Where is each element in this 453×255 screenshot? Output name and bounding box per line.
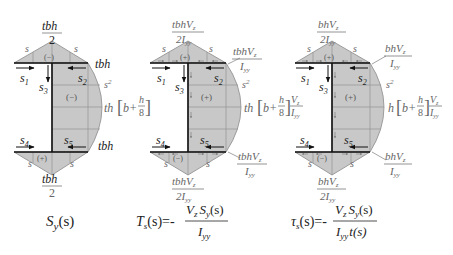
d3-top-label: bhVz 2Iyy <box>317 18 346 47</box>
svg-text:Ts(s)=-: Ts(s)=- <box>136 214 175 231</box>
d3-end-top-label: bhVz Iyy <box>372 42 412 71</box>
svg-text:Vz: Vz <box>430 94 439 106</box>
s3-label: s3 <box>39 80 48 96</box>
svg-text:VzSy(s): VzSy(s) <box>186 202 224 219</box>
svg-text:th: th <box>104 101 113 115</box>
d1-end-bot: tbh <box>98 139 113 153</box>
sign-label: (+) <box>180 53 190 62</box>
svg-text:2Iyy: 2Iyy <box>176 33 192 47</box>
svg-text:Iyy: Iyy <box>290 107 300 119</box>
svg-text:8: 8 <box>139 107 144 118</box>
d1-top-den: 2 <box>49 33 55 47</box>
svg-text:bhVz: bhVz <box>385 150 406 164</box>
svg-text:h: h <box>139 94 144 105</box>
caption-shear-stress: τs(s)=- VzSy(s) Iyyt(s) <box>291 202 377 241</box>
svg-text:Sy(s): Sy(s) <box>46 213 74 232</box>
svg-text:8: 8 <box>279 107 284 118</box>
caption-first-moment: Sy(s) <box>46 213 74 232</box>
svg-text:tbhVz: tbhVz <box>238 150 262 164</box>
svg-text:s4: s4 <box>156 133 165 149</box>
sign-label: (+) <box>37 154 47 163</box>
svg-text:Iyy: Iyy <box>239 60 251 74</box>
diagram-shear-flow: tbhVz 2Iyy s s (+) tbhVz Iyy s1 s2 s3 s2… <box>150 18 303 204</box>
d3-bot-label: bhVz 2Iyy <box>317 175 346 204</box>
s4-label: s4 <box>20 133 29 149</box>
svg-text:Iyy: Iyy <box>197 224 210 241</box>
shear-diagrams: tbh 2 s s (−) tbh s1 s2 s3 s2 (−) th [ b… <box>0 0 453 255</box>
sign-label: (+) <box>201 92 212 102</box>
d2-bot-label: tbhVz 2Iyy <box>172 175 204 204</box>
sign-label: (−) <box>44 53 54 62</box>
d3-end-bot-label: bhVz Iyy <box>372 150 412 179</box>
s-label: s <box>70 158 74 169</box>
s1-label: s1 <box>20 71 29 87</box>
d2-end-top-label: tbhVz Iyy <box>228 45 262 74</box>
sign-label: (−) <box>317 154 327 163</box>
svg-text:tbhVz: tbhVz <box>172 18 196 32</box>
s-label: s <box>307 43 311 54</box>
svg-text:h: h <box>418 94 423 105</box>
s-label: s <box>164 158 168 169</box>
s-label: s <box>308 158 312 169</box>
svg-text:Iyy: Iyy <box>389 57 401 71</box>
sign-label: (−) <box>173 154 183 163</box>
d1-bot-num: tbh <box>42 172 57 186</box>
svg-text:th: th <box>244 101 253 115</box>
diagram-shear-stress: bhVz 2Iyy s s (+) bhVz Iyy s1 s2 s3 s2 (… <box>295 18 442 204</box>
s-label: s <box>209 43 213 54</box>
svg-text:s2: s2 <box>242 78 250 90</box>
svg-text:Iyy: Iyy <box>389 165 401 179</box>
web-distribution <box>52 63 102 152</box>
svg-text:Iyyt(s): Iyyt(s) <box>335 224 367 241</box>
d1-top-num: tbh <box>42 19 57 33</box>
d1-bot-den: 2 <box>49 186 55 200</box>
s-squared-label: s2 <box>104 78 112 90</box>
svg-text:2Iyy: 2Iyy <box>320 190 336 204</box>
svg-text:8: 8 <box>418 107 423 118</box>
svg-text:Vz: Vz <box>291 94 300 106</box>
sign-label: (+) <box>345 92 356 102</box>
d2-top-label: tbhVz 2Iyy <box>172 18 204 47</box>
svg-text:b+: b+ <box>402 101 416 115</box>
d1-peak-label: th [ b+ h 8 ] <box>104 94 151 118</box>
diagram-first-moment: tbh 2 s s (−) tbh s1 s2 s3 s2 (−) th [ b… <box>14 19 151 200</box>
svg-text:s1: s1 <box>157 71 166 87</box>
s-label: s <box>28 158 32 169</box>
svg-text:bhVz: bhVz <box>318 18 339 32</box>
svg-text:s3: s3 <box>175 80 184 96</box>
svg-text:tbhVz: tbhVz <box>233 45 257 59</box>
sign-label: (+) <box>324 53 334 62</box>
d2-peak-label: th [ b+ h 8 ] Vz Iyy <box>244 94 303 119</box>
svg-text:h: h <box>388 101 394 115</box>
caption-shear-flow: Ts(s)=- VzSy(s) Iyy <box>136 202 228 241</box>
svg-text:s3: s3 <box>319 80 328 96</box>
svg-text:bhVz: bhVz <box>385 42 406 56</box>
d3-peak-label: h [ b+ h 8 ] Vz Iyy <box>388 94 442 119</box>
svg-text:b+: b+ <box>263 101 277 115</box>
svg-text:s1: s1 <box>301 71 310 87</box>
d1-end-top: tbh <box>95 57 110 71</box>
svg-text:b+: b+ <box>123 101 137 115</box>
svg-text:τs(s)=-: τs(s)=- <box>291 214 327 231</box>
svg-text:tbhVz: tbhVz <box>172 175 196 189</box>
svg-text:s2: s2 <box>386 78 394 90</box>
s-label: s <box>350 158 354 169</box>
svg-text:s4: s4 <box>300 133 309 149</box>
s-label: s <box>162 43 166 54</box>
s-label: s <box>206 158 210 169</box>
s-label: s <box>353 43 357 54</box>
svg-text:Iyy: Iyy <box>244 165 256 179</box>
svg-text:h: h <box>279 94 284 105</box>
svg-text:bhVz: bhVz <box>318 175 339 189</box>
svg-text:]: ] <box>145 97 151 117</box>
svg-text:2Iyy: 2Iyy <box>320 33 336 47</box>
s-label: s <box>74 43 78 54</box>
s-label: s <box>25 43 29 54</box>
svg-text:Iyy: Iyy <box>429 107 439 119</box>
sign-label: (−) <box>66 92 77 102</box>
svg-text:VzSy(s): VzSy(s) <box>335 202 373 219</box>
d2-end-bot-label: tbhVz Iyy <box>228 150 267 179</box>
